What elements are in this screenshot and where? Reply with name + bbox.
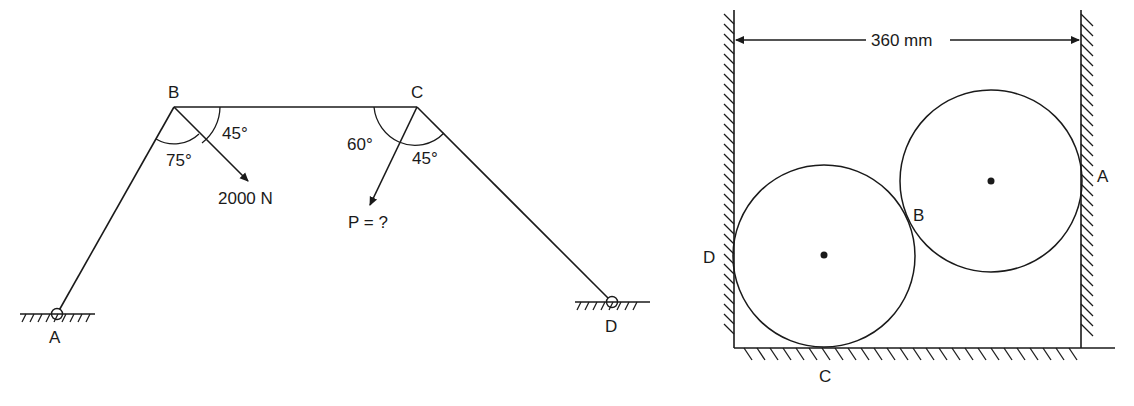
member-cd: [417, 107, 612, 302]
right-wall-hatching: [1081, 14, 1093, 336]
label-contact-d: D: [703, 248, 715, 267]
upper-cylinder-center: [988, 178, 995, 185]
angle-label-c-45: 45°: [412, 149, 438, 168]
member-ab: [57, 107, 174, 314]
label-contact-b: B: [913, 206, 924, 225]
support-a: [20, 309, 95, 323]
angle-arc-b-75: [156, 134, 199, 144]
angle-label-b-75: 75°: [166, 151, 192, 170]
label-d: D: [605, 317, 617, 336]
angle-label-c-60: 60°: [347, 135, 373, 154]
load-label-c: P = ?: [348, 213, 388, 232]
diagram-canvas: A D B C 2000 N 45° 75° P = ?: [0, 0, 1134, 406]
right-figure: 360 mm A B C D: [703, 10, 1115, 386]
support-d: [575, 297, 650, 311]
angle-arc-c-60: [374, 107, 399, 142]
label-a: A: [49, 328, 61, 347]
label-c: C: [411, 83, 423, 102]
load-arrow-c: [370, 107, 417, 205]
label-b: B: [168, 83, 179, 102]
dimension-label: 360 mm: [871, 31, 932, 50]
label-contact-a: A: [1097, 167, 1109, 186]
angle-arc-c-45: [399, 133, 444, 145]
load-label-b: 2000 N: [218, 189, 273, 208]
label-contact-c: C: [819, 367, 831, 386]
left-wall-hatching: [724, 14, 734, 334]
left-figure: A D B C 2000 N 45° 75° P = ?: [20, 83, 650, 347]
floor-hatching: [744, 348, 1077, 360]
lower-cylinder-center: [821, 252, 828, 259]
angle-label-b-45: 45°: [222, 124, 248, 143]
